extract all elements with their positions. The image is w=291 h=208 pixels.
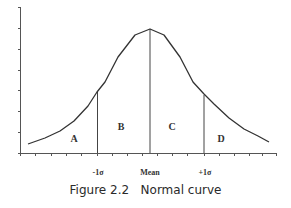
- y-axis: [18, 7, 21, 153]
- region-b-label: B: [118, 121, 125, 132]
- plus-sigma-label: +1σ: [199, 168, 213, 177]
- normal-curve: [28, 29, 269, 144]
- sigma-markers: [98, 29, 205, 153]
- region-a-label: A: [70, 133, 78, 144]
- x-axis: [18, 153, 277, 156]
- mean-label: Mean: [140, 168, 160, 177]
- figure-caption: Figure 2.2 Normal curve: [0, 183, 291, 197]
- normal-curve-chart: A B C D -1σ Mean +1σ: [0, 0, 291, 208]
- minus-sigma-label: -1σ: [92, 168, 104, 177]
- region-d-label: D: [217, 133, 224, 144]
- region-c-label: C: [168, 121, 175, 132]
